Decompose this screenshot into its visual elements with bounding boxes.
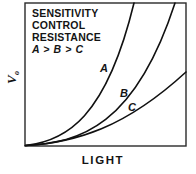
- y-axis-label-subscript: o: [12, 71, 21, 75]
- y-axis-label: V o: [4, 71, 21, 84]
- chart-svg: SENSITIVITY CONTROL RESISTANCE A > B > C…: [0, 0, 196, 174]
- curve-label-a: A: [99, 62, 108, 74]
- x-axis-label: LIGHT: [82, 154, 125, 166]
- annotation-line-2: CONTROL: [32, 19, 86, 31]
- annotation-inequality: A > B > C: [31, 43, 84, 55]
- annotation-line-1: SENSITIVITY: [32, 7, 98, 19]
- figure-container: SENSITIVITY CONTROL RESISTANCE A > B > C…: [0, 0, 196, 174]
- curve-label-b: B: [120, 87, 128, 99]
- curve-label-c: C: [128, 101, 137, 113]
- annotation-line-3: RESISTANCE: [32, 31, 101, 43]
